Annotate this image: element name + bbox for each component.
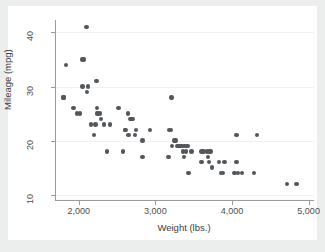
data-point [182,155,186,159]
data-point [173,138,177,142]
x-tick-label-5000: 5,000 [297,206,320,216]
data-point [126,111,130,115]
data-point [102,122,106,126]
data-point [80,84,84,88]
y-tick-40 [51,32,55,33]
graph-card: 10203040 2,0003,0004,0005,000 Mileage (m… [8,6,317,240]
data-point [84,25,88,29]
plot-area [55,20,314,199]
x-tick-label-3000: 3,000 [144,206,167,216]
data-point [222,160,226,164]
data-point [82,57,86,61]
data-point [169,95,173,99]
data-point [166,155,170,159]
data-point [210,165,214,169]
data-point [71,106,75,110]
data-point [199,160,203,164]
y-tick-30 [51,87,55,88]
x-tick-3000 [155,201,156,205]
gridline-y-10 [55,195,314,196]
gridline-y-30 [55,87,314,88]
data-point [185,144,189,148]
data-point [94,79,98,83]
data-point [140,155,144,159]
data-point [93,122,97,126]
data-point [64,63,68,67]
data-point [208,149,212,153]
data-point [121,149,125,153]
data-point [189,149,193,153]
data-point [169,128,173,132]
data-point [61,95,65,99]
x-tick-2000 [79,201,80,205]
x-tick-label-2000: 2,000 [67,206,90,216]
data-point [184,149,188,153]
x-tick-4000 [232,201,233,205]
data-point [186,171,190,175]
y-axis-title: Mileage (mpg) [2,49,13,110]
data-point [105,149,109,153]
gridline-y-40 [55,32,314,33]
y-tick-20 [51,141,55,142]
y-axis-line [55,20,56,200]
y-tick-10 [51,195,55,196]
x-axis-title: Weight (lbs.) [157,222,210,233]
data-point [140,138,144,142]
data-point [123,128,127,132]
y-tick-label-40: 40 [25,31,35,41]
gridline-y-20 [55,141,314,142]
data-point [86,84,90,88]
data-point [294,182,298,186]
data-point [130,117,134,121]
y-tick-label-30: 30 [25,86,35,96]
x-axis-line [55,200,314,201]
x-tick-5000 [309,201,310,205]
x-tick-label-4000: 4,000 [221,206,244,216]
y-tick-label-20: 20 [25,140,35,150]
scatter-plot-figure: 10203040 2,0003,0004,0005,000 Mileage (m… [0,0,325,252]
data-point [108,122,112,126]
y-tick-label-10: 10 [25,194,35,204]
